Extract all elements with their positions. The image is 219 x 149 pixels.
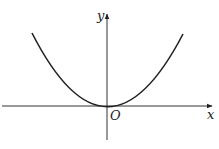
y-axis-label: y — [96, 8, 105, 23]
x-axis-label: x — [207, 107, 215, 122]
parabola-graph: y x O — [0, 0, 219, 149]
origin-label: O — [110, 108, 121, 123]
